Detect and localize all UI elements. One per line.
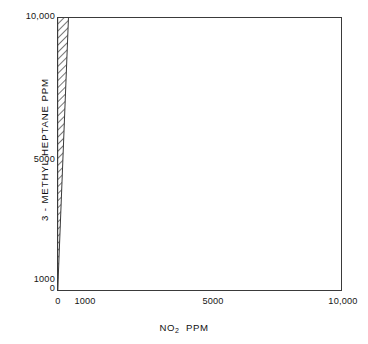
- x-tick-label-10000: 10,000: [328, 296, 357, 306]
- y-axis-title: 3 - METHYL HEPTANE PPM: [39, 30, 50, 270]
- x-axis-title: NO2 PPM: [0, 322, 368, 333]
- x-tick-label-1000: 1000: [74, 296, 95, 306]
- x-tick-label-0: 0: [55, 296, 60, 306]
- y-tick-label-0: 0: [50, 283, 55, 293]
- y-tick-label-10000: 10,000: [26, 11, 55, 21]
- plot-frame: [57, 17, 342, 291]
- x-tick-label-5000: 5000: [202, 296, 223, 306]
- chart-figure: 10,000 5000 1000 0 0 1000 5000 10,000 NO…: [0, 0, 368, 344]
- x-axis-title-main: NO: [159, 322, 175, 333]
- x-axis-title-subscript: 2: [175, 327, 180, 334]
- x-axis-title-unit: PPM: [186, 322, 209, 333]
